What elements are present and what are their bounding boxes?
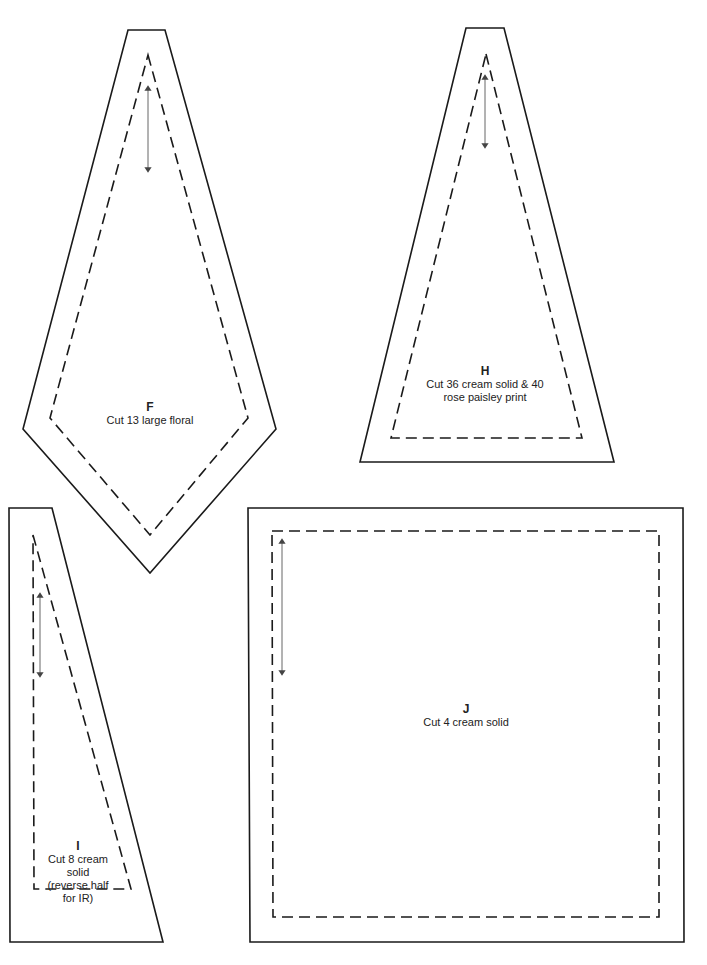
piece-i-seam-line bbox=[33, 535, 131, 889]
piece-i-letter: I bbox=[38, 839, 118, 853]
piece-j-instruction: Cut 4 cream solid bbox=[423, 716, 509, 728]
piece-j-letter: J bbox=[416, 702, 516, 716]
piece-h-letter: H bbox=[405, 364, 565, 378]
piece-i-label: I Cut 8 cream solid (reverse half for IR… bbox=[38, 839, 118, 905]
piece-i-instruction-line2: solid bbox=[38, 866, 118, 879]
piece-f-instruction: Cut 13 large floral bbox=[107, 414, 194, 426]
piece-f-seam-line bbox=[50, 55, 248, 535]
piece-f-label: F Cut 13 large floral bbox=[100, 400, 200, 427]
piece-i-instruction-line4: for IR) bbox=[38, 892, 118, 905]
piece-f-letter: F bbox=[100, 400, 200, 414]
pattern-sheet bbox=[0, 0, 707, 965]
piece-j-label: J Cut 4 cream solid bbox=[416, 702, 516, 729]
piece-f bbox=[23, 30, 276, 573]
piece-f-cut-line bbox=[23, 30, 276, 573]
piece-h-instruction-line1: Cut 36 cream solid & 40 bbox=[405, 378, 565, 391]
piece-h-label: H Cut 36 cream solid & 40 rose paisley p… bbox=[405, 364, 565, 404]
piece-i-instruction-line1: Cut 8 cream bbox=[38, 853, 118, 866]
piece-h-instruction-line2: rose paisley print bbox=[405, 391, 565, 404]
piece-i-instruction-line3: (reverse half bbox=[38, 879, 118, 892]
